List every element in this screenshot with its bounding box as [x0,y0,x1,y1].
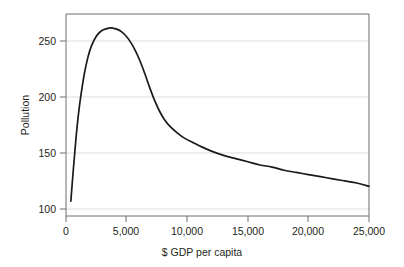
chart-canvas: 250 200 150 100 0 5,000 10,000 15,000 20… [0,0,404,267]
chart-figure: 250 200 150 100 0 5,000 10,000 15,000 20… [0,0,404,267]
x-tick-label-10000: 10,000 [171,225,203,237]
x-axis-title: $ GDP per capita [162,246,243,258]
y-tick-label-200: 200 [38,91,56,103]
x-tick-label-20000: 20,000 [292,225,324,237]
x-tick-label-15000: 15,000 [232,225,264,237]
y-tick-label-250: 250 [38,35,56,47]
x-tick-label-25000: 25,000 [353,225,385,237]
y-axis-title: Pollution [19,95,31,135]
y-tick-label-150: 150 [38,147,56,159]
y-tick-label-100: 100 [38,203,56,215]
x-tick-label-0: 0 [63,225,69,237]
x-tick-label-5000: 5,000 [113,225,139,237]
